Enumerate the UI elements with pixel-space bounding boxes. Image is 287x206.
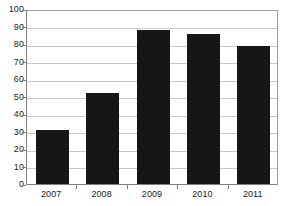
y-axis-tick-mark xyxy=(22,62,26,63)
bar xyxy=(86,93,119,184)
y-axis-tick-label: 50 xyxy=(0,93,24,102)
plot-area xyxy=(26,10,278,185)
x-axis-tick-label: 2011 xyxy=(228,189,278,199)
x-axis-tick-label: 2008 xyxy=(76,189,126,199)
x-axis-tick-mark xyxy=(228,185,229,189)
x-axis-tick-mark xyxy=(177,185,178,189)
gridline xyxy=(27,28,277,29)
y-axis-tick-label: 90 xyxy=(0,23,24,32)
y-axis-tick-label: 20 xyxy=(0,145,24,154)
y-axis-tick-mark xyxy=(22,80,26,81)
y-axis-tick-mark xyxy=(22,45,26,46)
y-axis-tick-label: 40 xyxy=(0,110,24,119)
x-axis-tick-mark xyxy=(127,185,128,189)
bar-chart: 0102030405060708090100 20072008200920102… xyxy=(0,0,287,206)
y-axis-tick-label: 100 xyxy=(0,5,24,14)
y-axis-tick-label: 70 xyxy=(0,58,24,67)
y-axis-tick-mark xyxy=(22,97,26,98)
bar xyxy=(187,34,220,185)
y-axis-tick-mark xyxy=(22,185,26,186)
x-axis-tick-mark xyxy=(76,185,77,189)
y-axis-tick-label: 0 xyxy=(0,180,24,189)
bar xyxy=(237,46,270,184)
bar xyxy=(36,130,69,184)
x-axis-tick-label: 2010 xyxy=(177,189,227,199)
y-axis-tick-label: 60 xyxy=(0,75,24,84)
y-axis-tick-label: 10 xyxy=(0,163,24,172)
x-axis-tick-label: 2009 xyxy=(127,189,177,199)
y-axis-tick-mark xyxy=(22,115,26,116)
bar xyxy=(137,30,170,184)
y-axis-tick-label: 80 xyxy=(0,40,24,49)
y-axis-tick-mark xyxy=(22,150,26,151)
y-axis-tick-mark xyxy=(22,10,26,11)
y-axis-tick-mark xyxy=(22,167,26,168)
y-axis-tick-label: 30 xyxy=(0,128,24,137)
y-axis-tick-mark xyxy=(22,27,26,28)
y-axis-tick-mark xyxy=(22,132,26,133)
x-axis-tick-label: 2007 xyxy=(26,189,76,199)
